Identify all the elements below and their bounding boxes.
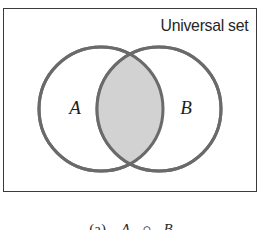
caption-right-set: B bbox=[164, 221, 173, 230]
caption-left-set: A bbox=[121, 221, 130, 230]
caption-operator-icon: ∩ bbox=[141, 221, 152, 230]
figure-caption: (a) A ∩ B bbox=[0, 221, 262, 230]
caption-index: (a) bbox=[89, 221, 106, 230]
venn-diagram-figure: Universal set A B (a) A ∩ B bbox=[0, 0, 262, 230]
universal-set-label: Universal set bbox=[160, 16, 248, 35]
